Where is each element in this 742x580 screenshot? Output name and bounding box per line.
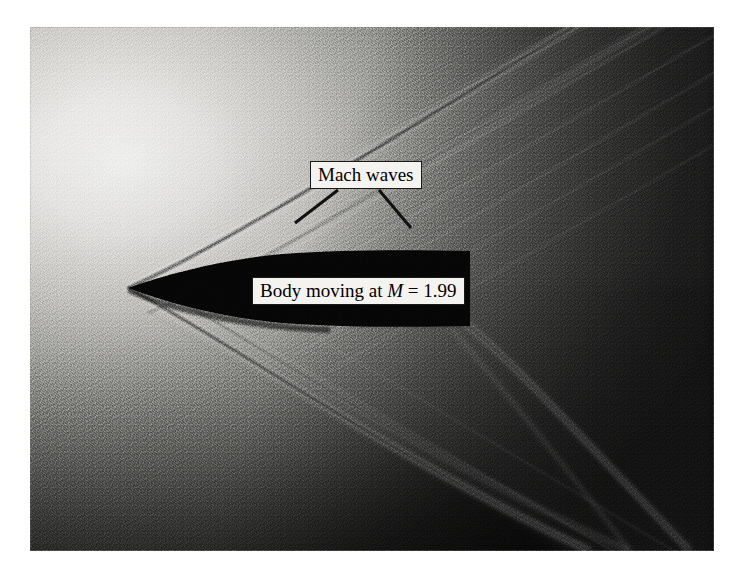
label-equals: = bbox=[403, 280, 423, 301]
label-body-moving: Body moving at M = 1.99 bbox=[252, 277, 465, 305]
label-mach-number: 1.99 bbox=[423, 280, 456, 301]
figure-root: Mach waves Body moving at M = 1.99 bbox=[0, 0, 742, 580]
label-body-prefix: Body moving at bbox=[260, 280, 387, 301]
label-mach-symbol: M bbox=[387, 280, 403, 301]
label-mach-waves: Mach waves bbox=[310, 161, 422, 189]
label-mach-waves-text: Mach waves bbox=[318, 164, 414, 185]
